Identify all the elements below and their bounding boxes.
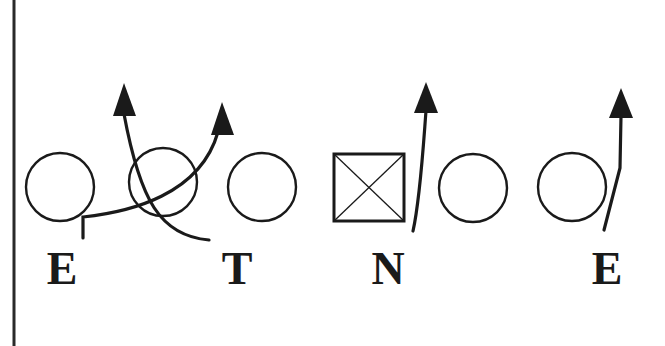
left-end-circle [26,153,94,221]
label-e-left: E [47,243,78,294]
arrowhead-icon [211,102,234,135]
left-tackle-circle [228,153,296,221]
label-e-right: E [592,243,623,294]
arrowhead-icon [113,83,136,116]
player-labels: E T N E [47,243,623,294]
route-e-right [604,116,621,230]
right-guard-circle [439,154,507,222]
arrowhead-icon [609,88,633,118]
center-square [334,154,404,221]
route-n [413,111,426,231]
play-diagram: E T N E [0,0,665,346]
label-n: N [371,243,404,294]
arrowhead-icon [414,82,438,113]
right-tackle-circle [538,153,606,221]
arrowheads [113,82,633,135]
label-t: T [222,243,253,294]
